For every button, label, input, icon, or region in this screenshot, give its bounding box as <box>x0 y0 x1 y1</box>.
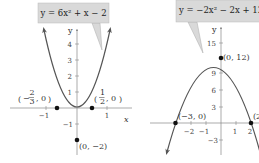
svg-text:2: 2 <box>68 73 72 81</box>
svg-text:): ) <box>119 95 122 104</box>
svg-text:2: 2 <box>30 88 35 97</box>
svg-text:3: 3 <box>212 104 216 112</box>
svg-text:−3: −3 <box>208 137 218 145</box>
right-graph: y = −2x² − 2x + 12 y 15 9 6 3 −3 −2 −1 <box>150 0 259 155</box>
right-root-point-2 <box>249 121 254 126</box>
left-root-label-2: (−3, 0) <box>178 112 206 121</box>
svg-text:15: 15 <box>207 40 216 48</box>
svg-text:): ) <box>48 95 51 104</box>
y-intercept-label: (0, 12) <box>223 53 250 62</box>
right-root-label: ( 1 2 , 0 ) <box>94 88 122 106</box>
left-equation-callout: y = 6x² + x − 2 <box>38 3 109 50</box>
vertex-label: (0, −2) <box>79 142 107 151</box>
svg-text:3: 3 <box>68 57 72 65</box>
svg-text:1: 1 <box>68 89 72 97</box>
left-graph: y = 6x² + x − 2 y 4 3 2 1 −1 −1 1 <box>10 3 132 155</box>
svg-text:1: 1 <box>100 88 105 97</box>
left-y-ticks: 4 3 2 1 −1 <box>63 41 79 129</box>
svg-text:, 0: , 0 <box>106 94 116 103</box>
svg-text:(: ( <box>94 95 97 104</box>
right-equation-callout: y = −2x² − 2x + 12 <box>176 0 259 53</box>
left-root-label: ( − 2 3 , 0 ) <box>18 88 51 106</box>
svg-text:−1: −1 <box>39 112 49 120</box>
svg-text:4: 4 <box>68 41 73 49</box>
left-x-label: x <box>124 115 129 124</box>
left-root-point <box>55 106 60 111</box>
right-y-label: y <box>211 25 217 34</box>
svg-text:9: 9 <box>212 70 216 78</box>
svg-text:2: 2 <box>248 128 252 136</box>
svg-text:2: 2 <box>100 97 105 106</box>
left-root-point-2 <box>173 121 178 126</box>
svg-text:6: 6 <box>212 87 217 95</box>
left-equation-text: y = 6x² + x − 2 <box>39 8 106 18</box>
svg-text:−2: −2 <box>184 128 194 136</box>
right-root-label-2: (2 <box>253 112 259 121</box>
svg-text:1: 1 <box>233 128 237 136</box>
graph-figure: y = 6x² + x − 2 y 4 3 2 1 −1 −1 1 <box>0 0 259 163</box>
right-equation-text: y = −2x² − 2x + 12 <box>178 5 259 15</box>
svg-text:, 0: , 0 <box>36 94 46 103</box>
left-y-label: y <box>67 26 73 35</box>
svg-text:−1: −1 <box>199 128 209 136</box>
svg-text:−1: −1 <box>63 121 73 129</box>
right-y-ticks: 15 9 6 3 −3 <box>207 40 223 145</box>
svg-text:(: ( <box>18 95 21 104</box>
right-root-point <box>90 106 95 111</box>
svg-text:3: 3 <box>30 97 35 106</box>
svg-text:1: 1 <box>105 112 109 120</box>
